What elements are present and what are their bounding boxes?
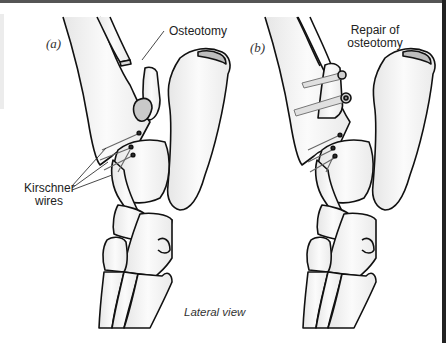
kirschner-line-2: wires (24, 195, 74, 208)
panel-b-label: (b) (250, 40, 265, 56)
repair-line-2: osteotomy (340, 37, 410, 50)
figure-frame: (a) Osteotomy Kirschner wires (b) Repair… (0, 0, 446, 343)
panel-a-label: (a) (46, 36, 61, 52)
caption-lateral-view: Lateral view (184, 306, 245, 318)
osteotomy-label: Osteotomy (169, 24, 227, 38)
panel-b-drawing (265, 17, 435, 328)
repair-of-osteotomy-label: Repair of osteotomy (340, 24, 410, 50)
panel-a-drawing (63, 17, 230, 328)
kirschner-wires-label: Kirschner wires (24, 182, 74, 208)
illustration (0, 0, 446, 343)
